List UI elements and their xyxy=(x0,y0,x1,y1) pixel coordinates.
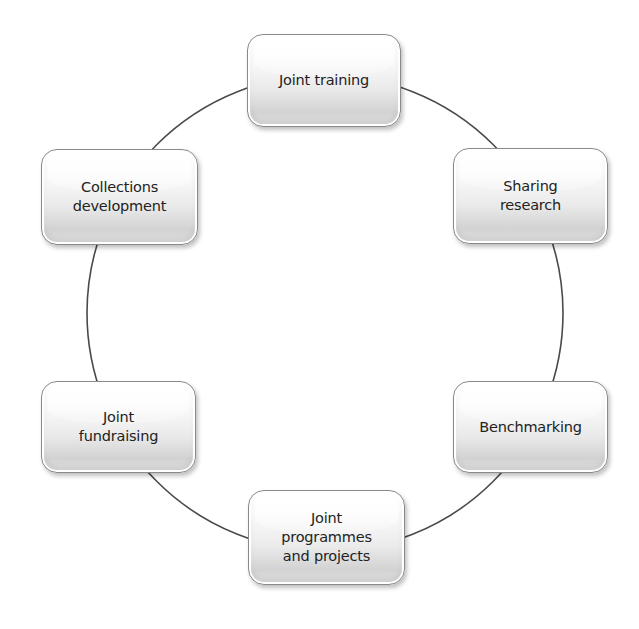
node-joint-fundraising: Joint fundraising xyxy=(41,381,196,473)
node-label: Joint training xyxy=(273,71,375,90)
node-joint-training: Joint training xyxy=(247,34,401,127)
node-sharing-research: Sharing research xyxy=(453,148,608,244)
node-benchmarking: Benchmarking xyxy=(453,381,608,473)
node-collections-development: Collections development xyxy=(41,149,198,245)
node-label: Benchmarking xyxy=(473,418,588,437)
node-joint-programmes-and-projects: Joint programmes and projects xyxy=(248,490,405,585)
cycle-diagram: Joint training Sharing research Benchmar… xyxy=(0,0,639,629)
node-label: Joint fundraising xyxy=(73,408,164,446)
ring-circle xyxy=(87,75,563,551)
node-label: Collections development xyxy=(67,178,172,216)
node-label: Joint programmes and projects xyxy=(275,509,378,566)
node-label: Sharing research xyxy=(494,177,567,215)
